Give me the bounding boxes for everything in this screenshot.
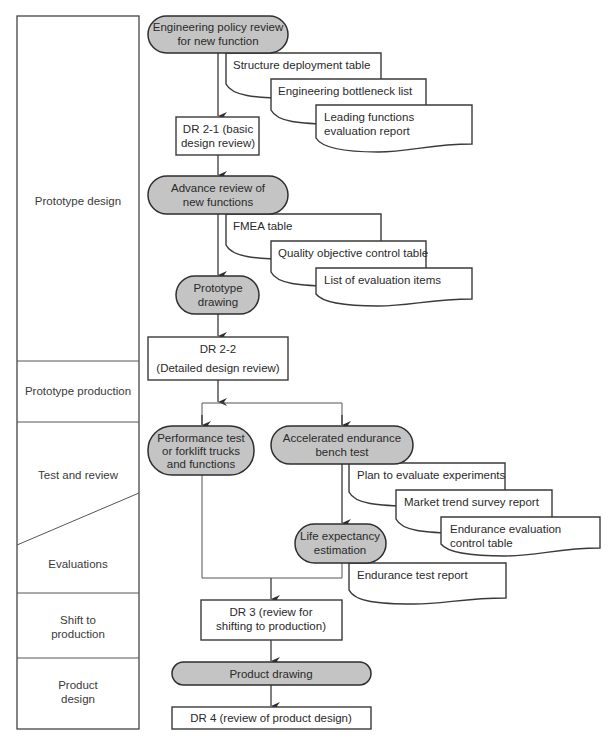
process-label: drawing	[198, 296, 238, 308]
review-dr3: DR 3 (review for shifting to production)	[201, 600, 342, 640]
process-policy-review: Engineering policy review for new functi…	[148, 16, 288, 53]
document-label: Market trend survey report	[404, 496, 540, 508]
process-label: estimation	[314, 544, 366, 556]
process-advance-review: Advance review of new functions	[148, 176, 288, 214]
review-dr4: DR 4 (review of product design)	[172, 707, 371, 729]
document-label: Endurance test report	[357, 569, 468, 581]
lane-label-shift-to-production-line1: Shift to	[60, 614, 96, 626]
document-label: Quality objective control table	[278, 247, 428, 259]
process-label: or forklift trucks	[162, 445, 240, 457]
review-label: DR 2-1 (basic	[183, 123, 254, 135]
document-group-policy: Structure deployment table Engineering b…	[226, 53, 472, 152]
process-label: Life expectancy	[300, 530, 380, 542]
process-product-drawing: Product drawing	[172, 662, 371, 685]
document-group-advance: FMEA table Quality objective control tab…	[226, 214, 472, 306]
review-label: (Detailed design review)	[156, 362, 280, 374]
review-label: design review)	[181, 137, 255, 149]
process-prototype-drawing: Prototype drawing	[176, 276, 259, 314]
review-label: DR 3 (review for	[229, 606, 312, 618]
document-label: evaluation report	[324, 125, 410, 137]
process-label: Engineering policy review	[153, 21, 284, 33]
lane-label-prototype-production: Prototype production	[25, 385, 131, 397]
document-label: Plan to evaluate experiments	[357, 469, 506, 481]
process-label: new functions	[183, 196, 254, 208]
lane-label-evaluations: Evaluations	[48, 558, 108, 570]
flowchart: Prototype design Prototype production Te…	[0, 0, 612, 744]
lane-label-prototype-design: Prototype design	[35, 195, 121, 207]
lane-label-shift-to-production-line2: production	[51, 628, 105, 640]
document-label: Engineering bottleneck list	[278, 85, 413, 97]
document-label: control table	[450, 537, 513, 549]
document-label: FMEA table	[233, 220, 292, 232]
process-label: Performance test	[157, 432, 245, 444]
process-label: for new function	[177, 35, 258, 47]
review-label: DR 2-2	[200, 343, 236, 355]
lane-label-test-and-review: Test and review	[38, 469, 119, 481]
process-label: Product drawing	[229, 668, 312, 680]
review-dr22: DR 2-2 (Detailed design review)	[148, 337, 288, 380]
process-label: Prototype	[193, 282, 242, 294]
document-label: List of evaluation items	[324, 274, 441, 286]
lane-label-product-design-line2: design	[61, 693, 95, 705]
process-label: Advance review of	[171, 182, 266, 194]
document-group-life: Endurance test report	[349, 563, 506, 604]
document-label: Leading functions	[324, 111, 414, 123]
process-life-expectancy: Life expectancy estimation	[295, 524, 386, 563]
document-label: Endurance evaluation	[450, 523, 561, 535]
branch-line	[202, 403, 342, 425]
lane-column: Prototype design Prototype production Te…	[17, 16, 139, 729]
process-label: Accelerated endurance	[283, 432, 401, 444]
process-accelerated-test: Accelerated endurance bench test	[271, 426, 413, 464]
review-label: DR 4 (review of product design)	[190, 712, 352, 724]
review-label: shifting to production)	[216, 620, 326, 632]
process-label: and functions	[167, 458, 236, 470]
review-dr21: DR 2-1 (basic design review)	[176, 117, 259, 155]
document-label: Structure deployment table	[233, 59, 370, 71]
lane-label-product-design-line1: Product	[58, 679, 98, 691]
process-label: bench test	[315, 446, 369, 458]
process-performance-test: Performance test or forklift trucks and …	[148, 426, 254, 475]
